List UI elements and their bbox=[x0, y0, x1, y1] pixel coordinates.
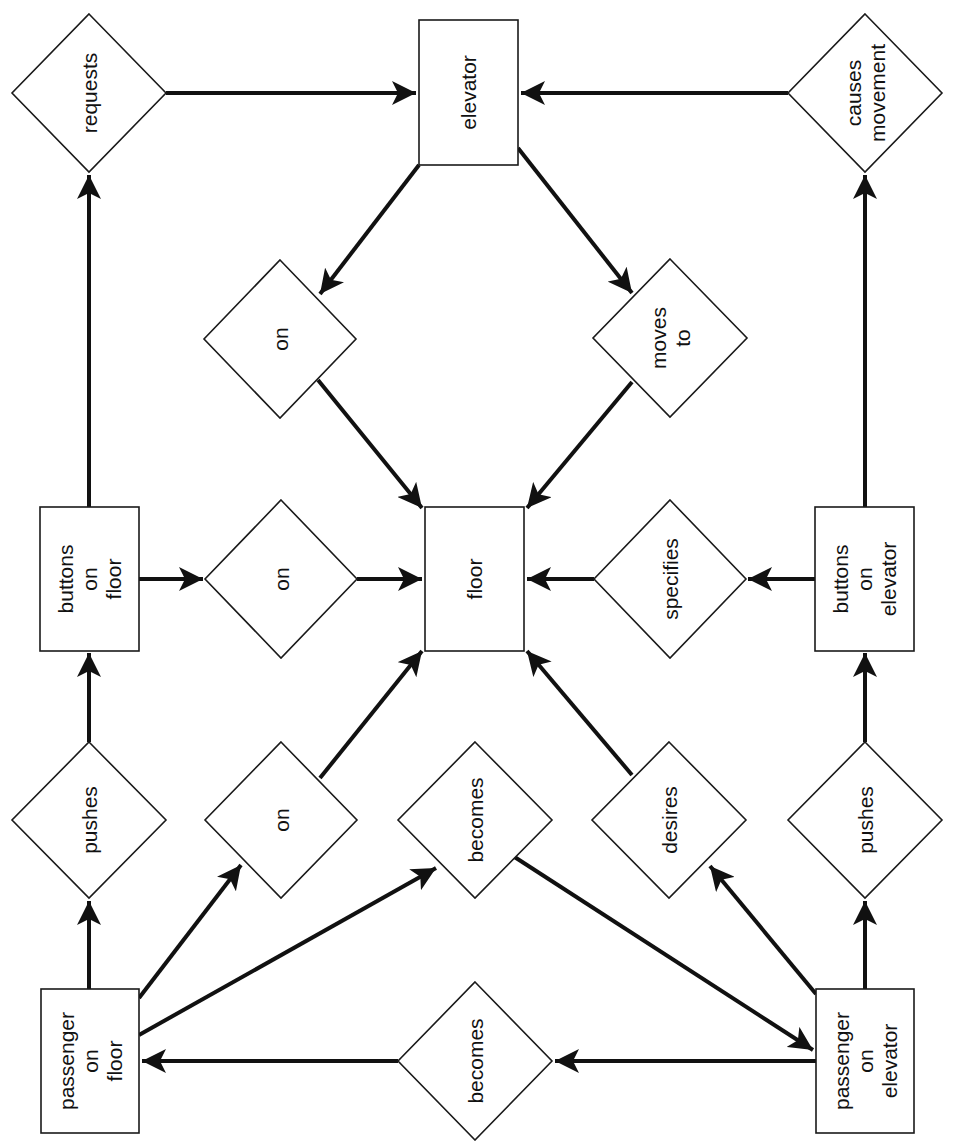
relationship-desires[interactable]: desires bbox=[592, 742, 746, 898]
edge-passenger-on-floor-to-becomes-to-elevator bbox=[139, 868, 436, 1035]
shape-label: passenger bbox=[55, 1012, 78, 1110]
entity-elevator[interactable]: elevator bbox=[419, 20, 518, 165]
entity-buttons-on-floor[interactable]: buttonsonfloor bbox=[40, 507, 139, 651]
shape-label: passenger bbox=[830, 1012, 853, 1110]
entity-passenger-on-floor[interactable]: passengeronfloor bbox=[41, 989, 139, 1133]
shape-label: elevator bbox=[878, 1024, 901, 1099]
shape-label: on bbox=[78, 567, 101, 590]
relationship-pushes-floor[interactable]: pushes bbox=[12, 742, 166, 898]
shape-label: elevator bbox=[457, 55, 480, 130]
shape-label: on bbox=[270, 567, 293, 590]
edge-on-passenger-floor-to-floor bbox=[320, 651, 422, 778]
shape-label: becomes bbox=[464, 777, 487, 862]
relationship-on-elevator-floor[interactable]: on bbox=[204, 260, 356, 418]
shape-label: on bbox=[269, 327, 292, 350]
shape-label: buttons bbox=[829, 545, 852, 614]
relationship-moves-to[interactable]: movesto bbox=[593, 259, 747, 417]
relationship-specifies[interactable]: specifies bbox=[594, 500, 746, 658]
shape-label: causes bbox=[842, 60, 865, 127]
entity-floor[interactable]: floor bbox=[425, 507, 524, 651]
er-diagram: elevatorfloorbuttonsonfloorbuttonsonelev… bbox=[0, 0, 953, 1141]
shape-label: moves bbox=[647, 307, 670, 369]
shape-label: floor bbox=[463, 559, 486, 600]
edge-elevator-to-moves-to bbox=[518, 148, 632, 293]
shape-label: floor bbox=[103, 1041, 126, 1082]
shape-label: requests bbox=[78, 53, 101, 134]
edge-passenger-on-elevator-to-desires bbox=[710, 866, 816, 994]
entity-buttons-on-elevator[interactable]: buttonsonelevator bbox=[815, 507, 914, 651]
shape-label: pushes bbox=[78, 786, 101, 854]
shape-label: desires bbox=[658, 786, 681, 854]
relationship-on-buttons-floor[interactable]: on bbox=[205, 500, 357, 658]
shape-label: on bbox=[853, 567, 876, 590]
shape-label: pushes bbox=[854, 786, 877, 854]
edge-elevator-to-on-elevator-floor bbox=[320, 165, 419, 294]
relationship-requests[interactable]: requests bbox=[12, 14, 166, 172]
shape-label: buttons bbox=[54, 545, 77, 614]
relationship-becomes-to-floor[interactable]: becomes bbox=[398, 982, 552, 1140]
shape-label: elevator bbox=[877, 542, 900, 617]
shape-label: floor bbox=[102, 559, 125, 600]
shape-label: to bbox=[671, 329, 694, 347]
edge-passenger-on-floor-to-on-passenger-floor bbox=[139, 865, 241, 998]
shape-label: specifies bbox=[659, 538, 682, 620]
relationship-on-passenger-floor[interactable]: on bbox=[205, 742, 357, 898]
edge-on-elevator-floor-to-floor bbox=[318, 380, 422, 508]
shape-label: becomes bbox=[464, 1018, 487, 1103]
entity-passenger-on-elevator[interactable]: passengeronelevator bbox=[816, 989, 914, 1133]
shape-label: movement bbox=[866, 44, 889, 142]
edge-desires-to-floor bbox=[527, 651, 632, 775]
relationship-causes-movement[interactable]: causesmovement bbox=[788, 14, 942, 172]
shape-label: on bbox=[79, 1049, 102, 1072]
shape-label: on bbox=[270, 808, 293, 831]
relationship-pushes-elevator[interactable]: pushes bbox=[788, 742, 942, 898]
shape-label: on bbox=[854, 1049, 877, 1072]
edge-moves-to-to-floor bbox=[527, 382, 632, 508]
